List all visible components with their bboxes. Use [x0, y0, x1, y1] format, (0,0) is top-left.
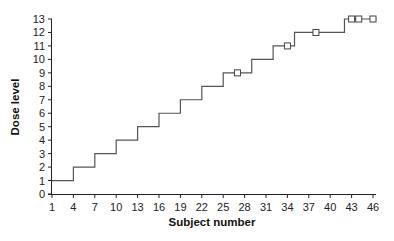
- y-tick-label: 0: [39, 188, 45, 200]
- x-tick-label: 4: [70, 201, 76, 213]
- x-tick-label: 40: [324, 201, 336, 213]
- y-tick-label: 5: [39, 121, 45, 133]
- y-tick-label: 7: [39, 94, 45, 106]
- x-tick-label: 19: [174, 201, 186, 213]
- square-marker: [370, 16, 376, 22]
- square-marker: [313, 29, 319, 35]
- x-tick-label: 7: [92, 201, 98, 213]
- x-tick-label: 16: [153, 201, 165, 213]
- x-tick-label: 25: [217, 201, 229, 213]
- x-tick-label: 43: [345, 201, 357, 213]
- square-marker: [284, 43, 290, 49]
- y-tick-label: 6: [39, 107, 45, 119]
- y-tick-label: 1: [39, 175, 45, 187]
- x-axis-title: Subject number: [169, 216, 256, 228]
- x-tick-label: 10: [110, 201, 122, 213]
- y-tick-label: 2: [39, 161, 45, 173]
- x-tick-label: 28: [238, 201, 250, 213]
- square-marker: [234, 70, 240, 76]
- square-markers: [234, 16, 376, 76]
- dose-escalation-chart: 0123456789101112131471013161922252831343…: [0, 0, 394, 241]
- y-tick-label: 10: [33, 53, 45, 65]
- x-tick-label: 22: [196, 201, 208, 213]
- step-series: [52, 19, 377, 181]
- y-tick-label: 12: [33, 26, 45, 38]
- x-tick-label: 31: [260, 201, 272, 213]
- square-marker: [356, 16, 362, 22]
- y-tick-label: 11: [34, 40, 45, 52]
- x-tick-label: 13: [131, 201, 143, 213]
- square-marker: [349, 16, 355, 22]
- y-axis-title: Dose level: [9, 79, 21, 136]
- y-tick-label: 3: [39, 148, 45, 160]
- y-tick-label: 9: [39, 67, 45, 79]
- x-tick-label: 34: [281, 201, 293, 213]
- axes: 0123456789101112131471013161922252831343…: [33, 13, 379, 213]
- dose-step-line: [52, 19, 377, 181]
- y-tick-label: 8: [39, 80, 45, 92]
- y-tick-label: 13: [33, 13, 45, 25]
- x-tick-label: 46: [367, 201, 379, 213]
- y-tick-label: 4: [39, 134, 45, 146]
- x-tick-label: 37: [303, 201, 315, 213]
- x-tick-label: 1: [49, 201, 55, 213]
